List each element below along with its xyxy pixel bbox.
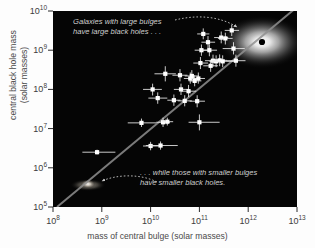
data-point — [201, 44, 217, 56]
data-point-marker — [195, 99, 199, 103]
figure-container: Galaxies with large bulges have large bl… — [0, 0, 315, 248]
y-tick-label: 105 — [21, 200, 47, 212]
data-point-marker — [149, 144, 153, 148]
annotation-large-bulges-line2: have large black holes . . . — [73, 27, 162, 37]
data-point — [189, 114, 220, 130]
data-point-marker — [209, 64, 213, 68]
data-point — [154, 66, 175, 81]
x-tick-label: 1013 — [284, 214, 310, 226]
data-point — [181, 85, 196, 97]
data-point-marker — [161, 120, 165, 124]
plot-area: Galaxies with large bulges have large bl… — [53, 11, 297, 207]
annotation-large-bulges-line1: Galaxies with large bulges — [73, 17, 162, 27]
y-axis-label-line2: (solar masses) — [19, 10, 30, 140]
data-point-marker — [201, 32, 205, 36]
data-point-marker — [207, 48, 211, 52]
data-point-marker — [234, 59, 238, 63]
data-point-marker — [178, 73, 182, 77]
data-point-marker — [139, 121, 143, 125]
data-point-marker — [197, 120, 201, 124]
annotation-small-bulges-line2: have smaller black holes. — [140, 178, 257, 188]
x-tick-label: 1012 — [235, 214, 261, 226]
y-axis-label: central black hole mass (solar masses) — [8, 10, 30, 140]
data-point-marker — [186, 89, 190, 93]
data-point-marker — [151, 87, 155, 91]
x-tick-label: 109 — [89, 214, 115, 226]
data-point — [167, 95, 180, 106]
data-point — [190, 95, 205, 107]
data-point-marker — [158, 143, 162, 147]
data-point — [193, 57, 208, 69]
data-point-marker — [156, 96, 160, 100]
x-tick-label: 1010 — [138, 214, 164, 226]
data-point-marker — [206, 40, 210, 44]
data-point — [143, 84, 162, 96]
data-point-marker — [95, 150, 99, 154]
y-axis-label-line1: central black hole mass — [8, 10, 19, 140]
x-tick-label: 108 — [40, 214, 66, 226]
data-point-marker — [196, 76, 200, 80]
data-point-marker — [165, 120, 169, 124]
data-point-marker — [163, 72, 167, 76]
data-point-marker — [183, 99, 187, 103]
data-point — [82, 150, 115, 155]
data-point — [172, 69, 187, 81]
y-tick-label: 106 — [21, 161, 47, 173]
x-axis-label: mass of central bulge (solar masses) — [0, 231, 315, 241]
data-point-marker — [190, 74, 194, 78]
data-point — [174, 84, 188, 95]
data-point-marker — [230, 28, 234, 32]
annotation-large-bulges: Galaxies with large bulges have large bl… — [73, 17, 162, 37]
data-point-marker — [219, 35, 223, 39]
data-point-marker — [221, 59, 225, 63]
annotation-small-bulges-line1: . . . while those with smaller bulges — [140, 168, 257, 178]
data-point — [148, 92, 167, 103]
data-point-marker — [198, 61, 202, 65]
data-point — [197, 28, 209, 39]
data-point-marker — [223, 36, 227, 40]
data-point-marker — [231, 46, 235, 50]
annotation-small-bulges: . . . while those with smaller bulges ha… — [140, 168, 257, 188]
data-point-marker — [172, 98, 176, 102]
data-point — [143, 142, 159, 150]
data-point-marker — [193, 79, 197, 83]
x-tick-label: 1011 — [186, 214, 212, 226]
data-point — [128, 119, 156, 127]
